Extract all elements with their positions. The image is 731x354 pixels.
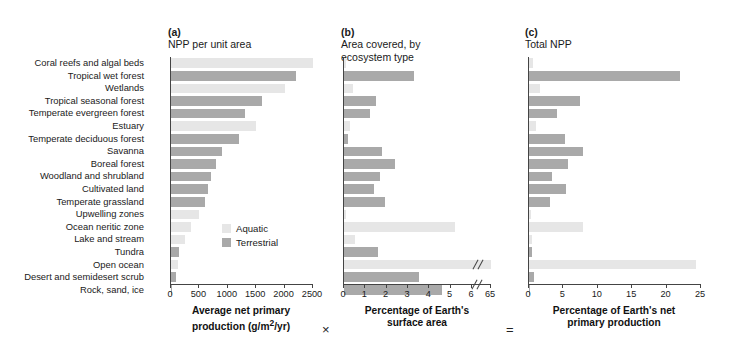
bar-row (528, 221, 700, 234)
bar-a-13 (171, 222, 191, 232)
category-label: Savanna (0, 145, 150, 158)
bar-row (528, 158, 700, 171)
bar-b-3 (344, 96, 376, 106)
bar-a-7 (171, 147, 222, 157)
bar-row (170, 82, 312, 95)
bar-a-12 (171, 210, 199, 220)
bar-row (528, 233, 700, 246)
x-axis-tick-label: 25 (695, 289, 705, 299)
x-axis-tick-label: 20 (660, 289, 670, 299)
bar-c-16 (529, 260, 696, 270)
a-plot-area: 05001000150020002500 (170, 57, 312, 284)
bar-c-0 (529, 58, 533, 68)
bar-row (528, 133, 700, 146)
bar-row (343, 170, 491, 183)
x-axis-tick (450, 284, 451, 288)
panel-a-title-text: NPP per unit area (168, 38, 251, 50)
legend-swatch-terrestrial-icon (222, 238, 231, 247)
bar-b-4 (344, 109, 370, 119)
category-label: Boreal forest (0, 158, 150, 171)
bar-a-10 (171, 184, 208, 194)
bar-row (343, 183, 491, 196)
b-plot-area: 012345665 (343, 57, 491, 284)
x-axis-tick-label: 5 (447, 289, 452, 299)
bar-a-11 (171, 197, 205, 207)
bar-row (343, 133, 491, 146)
x-axis-tick (284, 284, 285, 288)
category-label-column: Coral reefs and algal bedsTropical wet f… (0, 57, 150, 296)
x-axis-tick-label: 1000 (217, 289, 237, 299)
bar-b-11 (344, 197, 385, 207)
a-x-axis-caption: Average net primaryproduction (g/m2/yr) (150, 305, 332, 333)
category-label: Open ocean (0, 259, 150, 272)
bar-c-17 (529, 272, 534, 282)
x-axis-line (528, 284, 700, 285)
category-label: Woodland and shrubland (0, 170, 150, 183)
bar-c-11 (529, 197, 550, 207)
bar-row (528, 259, 700, 272)
bar-row (343, 196, 491, 209)
panel-a-title: (a) NPP per unit area (168, 13, 318, 51)
bar-b-14 (344, 235, 355, 245)
x-axis-tick-label: 15 (626, 289, 636, 299)
panel-a-tag: (a) (168, 26, 181, 38)
category-label: Desert and semidesert scrub (0, 271, 150, 284)
panel-c-title: (c) Total NPP (525, 13, 665, 51)
b-x-axis-caption: Percentage of Earth's surface area (323, 305, 511, 329)
bar-row (343, 158, 491, 171)
x-axis-tick-label: 5 (560, 289, 565, 299)
x-axis-tick-label: 6 (468, 289, 473, 299)
category-label: Estuary (0, 120, 150, 133)
category-label: Temperate deciduous forest (0, 133, 150, 146)
x-axis-tick (528, 284, 529, 288)
x-axis-tick-label: 500 (191, 289, 206, 299)
x-axis-tick (170, 284, 171, 288)
x-axis-tick (490, 284, 491, 288)
category-label: Ocean neritic zone (0, 221, 150, 234)
bar-row (528, 208, 700, 221)
bar-row (170, 158, 312, 171)
x-axis-tick-label: 1500 (245, 289, 265, 299)
bar-row (528, 284, 700, 297)
bar-row (528, 70, 700, 83)
bar-row (170, 271, 312, 284)
category-label: Tundra (0, 246, 150, 259)
panel-c: 0510152025Percentage of Earth's net prim… (528, 57, 700, 284)
panel-c-title-text: Total NPP (525, 38, 572, 50)
category-label: Tropical seasonal forest (0, 95, 150, 108)
bar-row (170, 120, 312, 133)
bar-row (170, 57, 312, 70)
bar-b-5 (344, 121, 350, 131)
bar-a-17 (171, 272, 176, 282)
x-axis-tick (428, 284, 429, 288)
category-label: Upwelling zones (0, 208, 150, 221)
x-axis-tick (700, 284, 701, 288)
bar-row (170, 107, 312, 120)
bar-b-2 (344, 84, 353, 94)
bar-row (170, 259, 312, 272)
bar-c-4 (529, 109, 557, 119)
x-axis-tick (407, 284, 408, 288)
bar-b-15 (344, 247, 378, 257)
x-axis-tick (364, 284, 365, 288)
legend-label-terrestrial: Terrestrial (236, 237, 278, 248)
x-axis-tick-label: 0 (525, 289, 530, 299)
bar-b-1 (344, 71, 414, 81)
category-label: Temperate evergreen forest (0, 107, 150, 120)
bar-row (343, 70, 491, 83)
bar-row (528, 107, 700, 120)
c-plot-area: 0510152025 (528, 57, 700, 284)
bar-c-12 (529, 210, 531, 220)
legend: Aquatic Terrestrial (222, 221, 278, 249)
category-label: Rock, sand, ice (0, 284, 150, 297)
bar-c-14 (529, 235, 532, 245)
x-axis-line (170, 284, 312, 285)
bar-row (170, 95, 312, 108)
legend-item-terrestrial: Terrestrial (222, 235, 278, 249)
bar-row (528, 145, 700, 158)
x-axis-tick-label: 3 (404, 289, 409, 299)
category-label: Temperate grassland (0, 196, 150, 209)
bar-c-15 (529, 247, 532, 257)
bar-row (343, 107, 491, 120)
bar-c-5 (529, 121, 536, 131)
